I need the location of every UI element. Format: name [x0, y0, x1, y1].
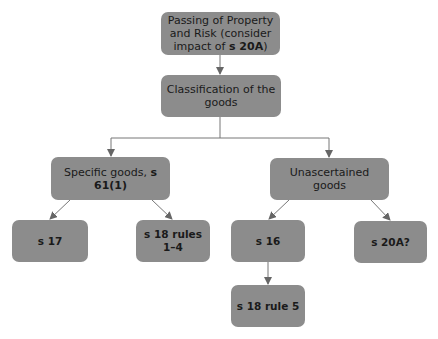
- node-passing-of-property: Passing of Property and Risk (consider i…: [161, 12, 280, 55]
- node-text: s 18 rules 1–4: [140, 228, 206, 254]
- node-text-end: ): [263, 40, 267, 53]
- node-specific-goods: Specific goods, s 61(1): [51, 157, 170, 200]
- node-text: s 18 rule 5: [237, 300, 300, 313]
- node-text: Specific goods,: [64, 166, 150, 179]
- node-s17: s 17: [12, 220, 88, 262]
- node-unascertained-goods: Unascertained goods: [270, 158, 389, 200]
- node-s16: s 16: [231, 220, 305, 262]
- node-classification: Classification of the goods: [161, 75, 281, 117]
- node-text: Classification of the goods: [165, 83, 277, 109]
- node-s20a: s 20A?: [354, 221, 427, 263]
- node-text: s 16: [256, 235, 281, 248]
- section-ref: s 20A: [229, 40, 263, 53]
- node-text: Unascertained goods: [274, 166, 385, 192]
- node-s18-rules-1-4: s 18 rules 1–4: [136, 220, 210, 262]
- node-text: s 17: [38, 235, 63, 248]
- node-s18-rule-5: s 18 rule 5: [231, 285, 305, 327]
- node-text: s 20A?: [371, 236, 410, 249]
